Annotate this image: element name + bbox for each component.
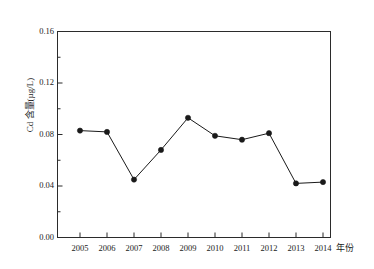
chart-figure: Cd 含量(µg/L) 0.16 0.12 0.08 0.04 0.00 200… xyxy=(0,0,374,269)
data-point xyxy=(212,133,217,138)
plot-area xyxy=(0,0,374,269)
data-point xyxy=(293,181,298,186)
plot-frame xyxy=(58,32,331,238)
data-point xyxy=(239,137,244,142)
data-point xyxy=(266,131,271,136)
data-point xyxy=(320,180,325,185)
data-point xyxy=(77,128,82,133)
data-point xyxy=(131,177,136,182)
data-point xyxy=(185,115,190,120)
data-point xyxy=(158,147,163,152)
data-point xyxy=(104,129,109,134)
